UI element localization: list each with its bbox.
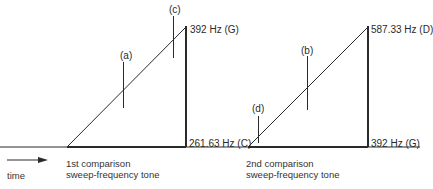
sweep1-triangle [67, 26, 186, 147]
sweep2-caption-line2: sweep-frequency tone [246, 169, 339, 180]
sweep1-caption-line1: 1st comparison [66, 158, 130, 169]
marker-d-label: (d) [252, 103, 264, 114]
sweep2-caption-line1: 2nd comparison [246, 158, 314, 169]
marker-a-label: (a) [120, 50, 132, 61]
sweep1-bottom-frequency: 261.63 Hz (C) [189, 138, 251, 149]
marker-b-label: (b) [301, 45, 313, 56]
marker-c-label: (c) [169, 4, 181, 15]
sweep2-bottom-frequency: 392 Hz (G) [371, 138, 420, 149]
sweep1-caption-line2: sweep-frequency tone [66, 169, 159, 180]
arrow-right-icon [7, 157, 48, 163]
time-axis-label: time [7, 170, 25, 181]
sweep2-top-frequency: 587.33 Hz (D) [371, 24, 433, 35]
sweep1-top-frequency: 392 Hz (G) [190, 24, 239, 35]
